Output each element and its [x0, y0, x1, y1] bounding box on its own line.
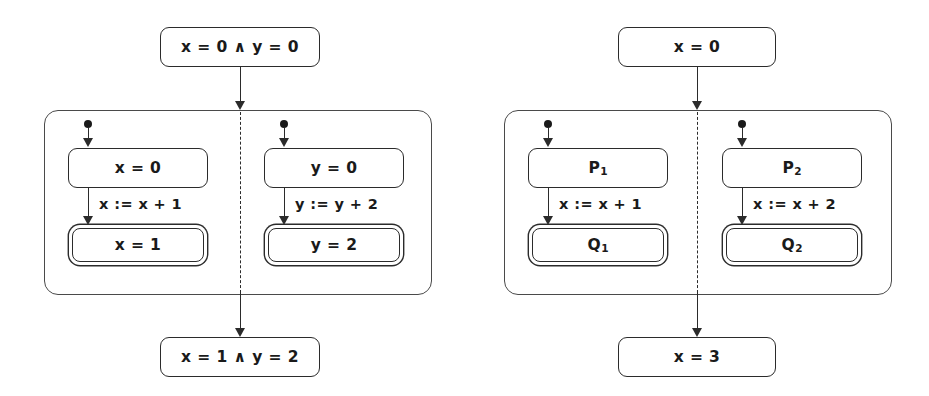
branch-right-source-state-label: y = 0: [311, 159, 358, 177]
branch-right-target-state-label: Q2: [782, 236, 803, 254]
postcondition-connector-line: [240, 293, 241, 331]
initial-state-marker-arrowhead-left: [543, 138, 553, 147]
postcondition-connector-line: [697, 293, 698, 331]
initial-state-marker-arrowhead-right: [279, 138, 289, 147]
branch-left-source-state: x = 0: [68, 148, 208, 188]
branch-right-source-state: y = 0: [264, 148, 404, 188]
initial-state-marker-arrowhead-left: [83, 138, 93, 147]
postcondition-box: x = 3: [618, 337, 776, 377]
initial-state-marker-dot-right: [280, 120, 288, 128]
branch-right-target-state: y = 2: [268, 228, 400, 262]
branch-left-target-state-label: x = 1: [115, 236, 162, 254]
branch-right-target-state-symbol: Q: [782, 236, 796, 254]
branch-left-source-state-label: P1: [588, 159, 607, 177]
initial-state-marker-dot-right: [738, 120, 746, 128]
branch-left-target-state-label: Q1: [588, 236, 609, 254]
precondition-connector-line: [697, 67, 698, 103]
branch-right-source-state-subscript: 2: [794, 165, 801, 177]
precondition-box: x = 0: [618, 27, 776, 67]
branch-right-transition-arrowhead: [279, 216, 289, 225]
precondition-box: x = 0 ∧ y = 0: [160, 27, 320, 67]
postcondition-box: x = 1 ∧ y = 2: [160, 337, 320, 377]
branch-left-transition-arrowhead: [543, 216, 553, 225]
branch-left-source-state: P1: [528, 148, 668, 188]
automaton-figure-concrete: x = 0 ∧ y = 0 x = 0 x := x + 1 x = 1 y =…: [0, 0, 464, 396]
branch-right-target-state-label: y = 2: [311, 236, 358, 254]
precondition-connector-arrowhead: [692, 101, 702, 110]
precondition-label: x = 0 ∧ y = 0: [181, 38, 299, 56]
branch-left-source-state-subscript: 1: [600, 165, 607, 177]
postcondition-connector-arrowhead: [235, 328, 245, 337]
precondition-connector-line: [240, 67, 241, 103]
parallel-composition-divider: [697, 112, 698, 293]
postcondition-connector-arrowhead: [692, 328, 702, 337]
initial-state-marker-dot-left: [544, 120, 552, 128]
branch-left-target-state: x = 1: [72, 228, 204, 262]
precondition-label: x = 0: [674, 38, 721, 56]
branch-right-source-state-label: P2: [782, 159, 801, 177]
branch-left-transition-arrowhead: [83, 216, 93, 225]
branch-left-transition-label: x := x + 1: [559, 196, 642, 212]
branch-left-target-state-symbol: Q: [588, 236, 602, 254]
branch-right-transition-arrowhead: [737, 216, 747, 225]
branch-right-transition-label: y := y + 2: [295, 196, 378, 212]
branch-right-source-state-symbol: P: [782, 159, 794, 177]
branch-right-source-state: P2: [722, 148, 862, 188]
automaton-figure-abstract: x = 0 P1 x := x + 1 Q1 P2 x := x + 2: [465, 0, 929, 396]
postcondition-label: x = 3: [674, 348, 721, 366]
branch-left-source-state-symbol: P: [588, 159, 600, 177]
initial-state-marker-dot-left: [84, 120, 92, 128]
precondition-connector-arrowhead: [235, 101, 245, 110]
branch-left-source-state-label: x = 0: [115, 159, 162, 177]
branch-right-transition-label: x := x + 2: [753, 196, 836, 212]
parallel-composition-divider: [240, 112, 241, 293]
branch-right-target-state-subscript: 2: [795, 242, 802, 254]
initial-state-marker-arrowhead-right: [737, 138, 747, 147]
postcondition-label: x = 1 ∧ y = 2: [181, 348, 299, 366]
branch-left-transition-label: x := x + 1: [99, 196, 182, 212]
branch-left-target-state-subscript: 1: [601, 242, 608, 254]
branch-right-target-state: Q2: [726, 228, 858, 262]
diagram-canvas: x = 0 ∧ y = 0 x = 0 x := x + 1 x = 1 y =…: [0, 0, 929, 396]
branch-left-target-state: Q1: [532, 228, 664, 262]
